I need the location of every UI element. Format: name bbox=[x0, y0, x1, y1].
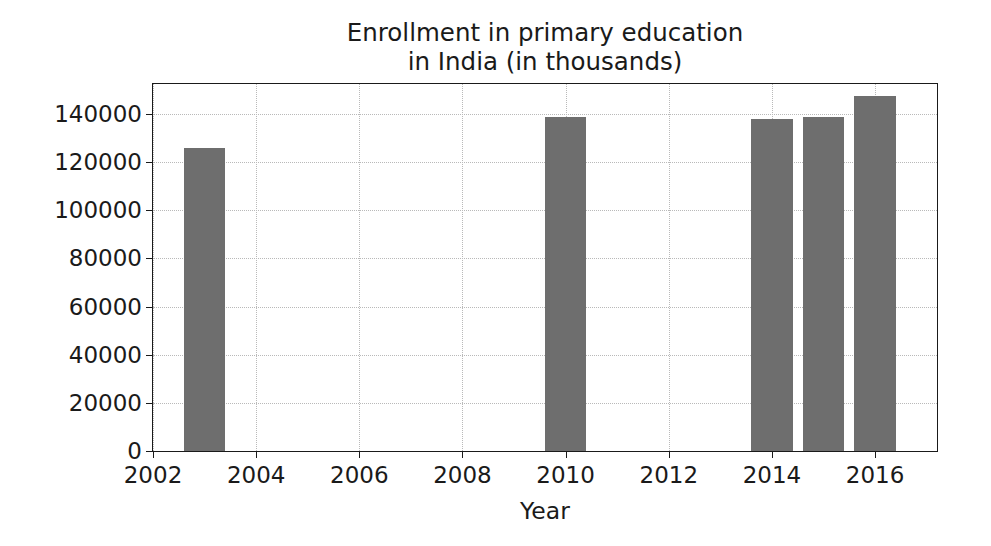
y-tick-label: 120000 bbox=[54, 149, 142, 175]
y-tick-mark bbox=[146, 403, 153, 404]
bar-2014 bbox=[751, 119, 792, 451]
chart-figure: Enrollment in primary education in India… bbox=[0, 0, 991, 546]
y-tick-label: 80000 bbox=[69, 245, 142, 271]
x-tick-mark bbox=[875, 451, 876, 458]
x-tick-mark bbox=[256, 451, 257, 458]
x-tick-mark bbox=[566, 451, 567, 458]
x-tick-mark bbox=[772, 451, 773, 458]
y-tick-label: 100000 bbox=[54, 197, 142, 223]
plot-axes: 0200004000060000800001000001200001400002… bbox=[152, 83, 938, 452]
gridline-vertical bbox=[669, 84, 671, 451]
y-tick-mark bbox=[146, 355, 153, 356]
x-tick-label: 2008 bbox=[433, 462, 492, 488]
x-tick-label: 2006 bbox=[330, 462, 389, 488]
y-tick-label: 40000 bbox=[69, 342, 142, 368]
y-tick-mark bbox=[146, 451, 153, 452]
x-tick-label: 2010 bbox=[536, 462, 595, 488]
y-tick-mark bbox=[146, 307, 153, 308]
bar-2010 bbox=[545, 117, 586, 452]
chart-title: Enrollment in primary education in India… bbox=[152, 18, 938, 76]
gridline-vertical bbox=[256, 84, 258, 451]
y-tick-label: 60000 bbox=[69, 294, 142, 320]
x-axis-label: Year bbox=[152, 497, 938, 525]
gridline-vertical bbox=[153, 84, 155, 451]
x-tick-label: 2014 bbox=[743, 462, 802, 488]
y-tick-mark bbox=[146, 114, 153, 115]
x-tick-label: 2016 bbox=[846, 462, 905, 488]
y-tick-mark bbox=[146, 210, 153, 211]
bar-2015 bbox=[803, 117, 844, 452]
y-tick-mark bbox=[146, 162, 153, 163]
gridline-vertical bbox=[359, 84, 361, 451]
x-tick-label: 2012 bbox=[640, 462, 699, 488]
plot-area bbox=[153, 84, 937, 451]
x-tick-mark bbox=[153, 451, 154, 458]
x-tick-label: 2004 bbox=[227, 462, 286, 488]
x-tick-mark bbox=[462, 451, 463, 458]
x-tick-label: 2002 bbox=[124, 462, 183, 488]
x-tick-mark bbox=[669, 451, 670, 458]
y-tick-label: 0 bbox=[127, 438, 142, 464]
gridline-vertical bbox=[462, 84, 464, 451]
bar-2003 bbox=[184, 148, 225, 451]
y-tick-label: 140000 bbox=[54, 101, 142, 127]
bar-2016 bbox=[854, 96, 895, 451]
y-tick-label: 20000 bbox=[69, 390, 142, 416]
y-tick-mark bbox=[146, 258, 153, 259]
x-tick-mark bbox=[359, 451, 360, 458]
